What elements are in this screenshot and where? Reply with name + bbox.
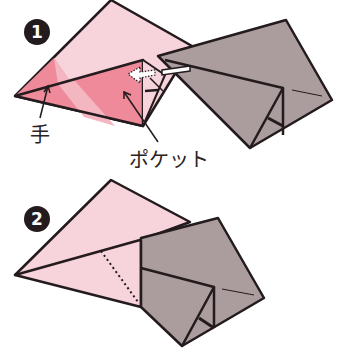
svg-text:1: 1 <box>31 22 43 42</box>
origami-diagram: 1 2 <box>0 0 351 358</box>
grey-piece <box>158 20 332 148</box>
hand-label: 手 <box>30 125 50 145</box>
grey-piece <box>141 218 264 346</box>
step-1-badge: 1 <box>24 19 50 45</box>
step-1: 1 <box>15 0 332 148</box>
step-2-badge: 2 <box>24 206 50 232</box>
step-2: 2 <box>15 180 264 346</box>
svg-text:2: 2 <box>31 209 43 229</box>
pocket-label: ポケット <box>129 150 209 170</box>
